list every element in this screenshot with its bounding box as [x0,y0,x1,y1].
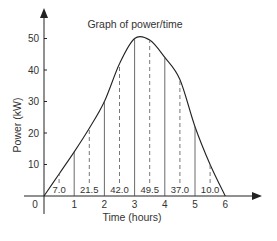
mid-ordinate-label: 42.0 [110,184,129,195]
x-tick-label: 6 [222,199,228,210]
x-tick-label: 3 [132,199,138,210]
y-axis-arrow-icon [40,8,48,18]
mid-ordinate-label: 49.5 [140,184,159,195]
mid-ordinate-label: 10.0 [201,184,220,195]
x-tick-label: 1 [71,199,77,210]
y-tick-label: 30 [28,96,40,107]
chart-canvas: 102030405001234567.021.542.049.537.010.0… [0,0,277,241]
x-axis-label: Time (hours) [102,211,161,223]
x-tick-label: 5 [192,199,198,210]
x-tick-label: 0 [32,199,38,210]
y-axis-label: Power (kW) [11,98,23,153]
chart-title: Graph of power/time [87,18,182,30]
power-time-chart: 102030405001234567.021.542.049.537.010.0… [0,0,277,241]
x-tick-label: 4 [162,199,168,210]
x-tick-label: 2 [102,199,108,210]
x-axis-arrow-icon [252,192,262,200]
y-tick-label: 50 [28,33,40,44]
mid-ordinate-label: 21.5 [80,184,99,195]
plot-area: 102030405001234567.021.542.049.537.010.0 [24,8,262,214]
y-tick-label: 10 [28,159,40,170]
mid-ordinate-label: 37.0 [171,184,190,195]
mid-ordinate-label: 7.0 [52,184,65,195]
y-tick-label: 40 [28,65,40,76]
y-tick-label: 20 [28,128,40,139]
